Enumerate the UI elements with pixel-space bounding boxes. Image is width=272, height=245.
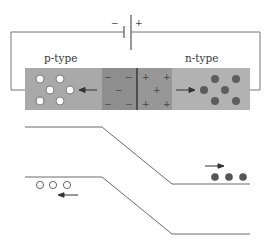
battery-icon bbox=[124, 15, 131, 50]
band-electrons bbox=[211, 173, 247, 181]
band-electron-arrow-icon bbox=[205, 164, 224, 168]
battery-negative-label: − bbox=[111, 19, 119, 28]
positive-ion: + bbox=[142, 100, 150, 109]
negative-ion: − bbox=[115, 86, 123, 95]
negative-ion: − bbox=[125, 100, 133, 109]
p-type-label: p-type bbox=[44, 52, 77, 64]
positive-ion: + bbox=[163, 100, 171, 109]
band-holes bbox=[36, 181, 70, 188]
negative-ion: − bbox=[104, 73, 112, 82]
positive-ion: + bbox=[163, 73, 171, 82]
battery-positive-label: + bbox=[135, 19, 143, 28]
band-hole-arrow-icon bbox=[58, 193, 78, 197]
positive-ion: + bbox=[142, 73, 150, 82]
pn-junction-diagram bbox=[0, 0, 272, 245]
valence-band-line bbox=[25, 177, 250, 234]
negative-ion: − bbox=[104, 100, 112, 109]
positive-ion: + bbox=[153, 86, 161, 95]
negative-ion: − bbox=[125, 73, 133, 82]
n-type-label: n-type bbox=[185, 52, 218, 64]
